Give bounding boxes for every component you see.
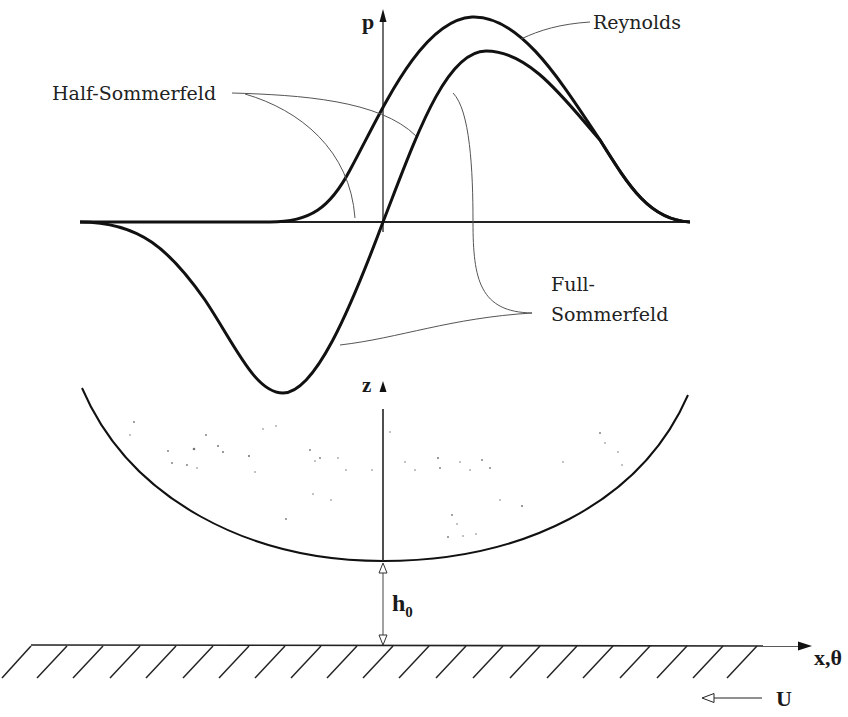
gap-subscript: 0 <box>405 604 413 620</box>
reynolds-label: Reynolds <box>593 11 681 33</box>
p-axis-label: p <box>362 9 374 34</box>
gap-arrow-up-icon <box>379 563 387 573</box>
full-sommerfeld-leader-2 <box>340 313 532 345</box>
journal-arc <box>82 388 688 561</box>
velocity-label: U <box>776 686 792 711</box>
half-sommerfeld-leader-2 <box>245 94 355 218</box>
reynolds-leader <box>521 22 590 39</box>
journal-texture <box>129 421 623 538</box>
reynolds-curve <box>80 17 690 222</box>
x-axis-label: x,θ <box>814 645 842 670</box>
velocity-arrow-icon <box>702 694 714 703</box>
bearing-pressure-diagram: p Reynolds Half-Sommerfeld Full- Sommerf… <box>0 0 848 717</box>
full-sommerfeld-leader-1 <box>453 93 532 313</box>
gap-label: h0 <box>392 590 413 620</box>
full-sommerfeld-label-line1: Full- <box>551 273 595 295</box>
z-axis-arrow-icon <box>380 381 387 392</box>
half-sommerfeld-label: Half-Sommerfeld <box>52 82 216 104</box>
ground-hatching <box>2 646 757 678</box>
ground-surface <box>31 645 800 646</box>
full-sommerfeld-label-line2: Sommerfeld <box>551 303 668 325</box>
z-axis-label: z <box>362 373 371 397</box>
gap-arrow-down-icon <box>379 635 387 645</box>
p-axis-arrow-icon <box>380 9 387 22</box>
x-axis-arrow-icon <box>798 642 812 651</box>
